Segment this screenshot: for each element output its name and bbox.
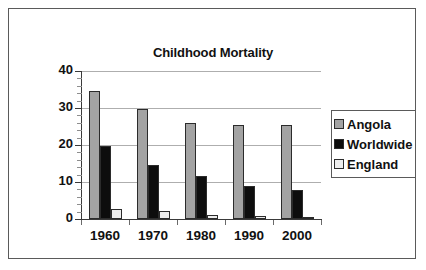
bar-angola-1980 [185, 123, 196, 219]
y-tick-minor-24 [77, 130, 82, 131]
bar-angola-1960 [89, 91, 100, 219]
bar-angola-1990 [233, 125, 244, 219]
y-tick-label-0: 0 [39, 210, 73, 225]
y-tick-minor-16 [77, 160, 82, 161]
y-tick-label-20: 20 [39, 136, 73, 151]
x-axis-labels: 19601970198019902000 [81, 228, 321, 250]
x-axis-label-1960: 1960 [81, 228, 129, 243]
y-tick-minor-6 [77, 197, 82, 198]
y-tick-label-10: 10 [39, 173, 73, 188]
y-tick-minor-38 [77, 78, 82, 79]
y-tick-label-40: 40 [39, 62, 73, 77]
legend-label-angola: Angola [347, 118, 391, 131]
category-tick-1980 [225, 220, 226, 225]
chart-container: Childhood Mortality % dying by age five … [8, 8, 416, 259]
plot-area: 010203040 [81, 71, 321, 219]
x-axis-label-2000: 2000 [273, 228, 321, 243]
bar-england-1970 [159, 211, 170, 219]
y-tick-major-40 [75, 71, 82, 72]
bar-england-1990 [255, 216, 266, 219]
y-tick-minor-36 [77, 86, 82, 87]
x-axis-label-1980: 1980 [177, 228, 225, 243]
legend-item-angola[interactable]: Angola [334, 114, 412, 134]
bar-worldwide-1990 [244, 186, 255, 219]
category-tick-start [81, 220, 82, 225]
gridline-40 [81, 71, 321, 72]
y-tick-minor-4 [77, 204, 82, 205]
bar-worldwide-1980 [196, 176, 207, 219]
bar-worldwide-1970 [148, 165, 159, 219]
chart-title: Childhood Mortality [9, 45, 417, 60]
x-axis-label-1990: 1990 [225, 228, 273, 243]
legend-item-worldwide[interactable]: Worldwide [334, 134, 412, 154]
bar-england-1960 [111, 209, 122, 219]
y-tick-minor-22 [77, 138, 82, 139]
bar-worldwide-2000 [292, 190, 303, 219]
legend-label-england: England [347, 158, 398, 171]
y-tick-minor-18 [77, 152, 82, 153]
legend-swatch-icon-worldwide [334, 139, 344, 149]
gridline-30 [81, 108, 321, 109]
bar-angola-2000 [281, 125, 292, 219]
category-tick-1990 [273, 220, 274, 225]
category-tick-1960 [129, 220, 130, 225]
legend-swatch-icon-angola [334, 119, 344, 129]
y-tick-minor-28 [77, 115, 82, 116]
chart-legend: AngolaWorldwideEngland [331, 110, 416, 178]
y-tick-minor-14 [77, 167, 82, 168]
y-tick-minor-34 [77, 93, 82, 94]
y-tick-minor-26 [77, 123, 82, 124]
bar-worldwide-1960 [100, 146, 111, 219]
y-tick-major-10 [75, 182, 82, 183]
legend-item-england[interactable]: England [334, 154, 412, 174]
y-tick-major-20 [75, 145, 82, 146]
y-tick-minor-2 [77, 212, 82, 213]
bar-england-2000 [303, 217, 314, 219]
legend-label-worldwide: Worldwide [347, 138, 412, 151]
bar-angola-1970 [137, 109, 148, 219]
legend-swatch-icon-england [334, 159, 344, 169]
y-tick-label-30: 30 [39, 99, 73, 114]
category-tick-1970 [177, 220, 178, 225]
y-tick-major-30 [75, 108, 82, 109]
category-tick-2000 [321, 220, 322, 225]
y-tick-minor-8 [77, 189, 82, 190]
bar-england-1980 [207, 215, 218, 219]
x-axis-baseline [81, 219, 322, 220]
y-tick-minor-32 [77, 101, 82, 102]
x-axis-label-1970: 1970 [129, 228, 177, 243]
y-tick-minor-12 [77, 175, 82, 176]
